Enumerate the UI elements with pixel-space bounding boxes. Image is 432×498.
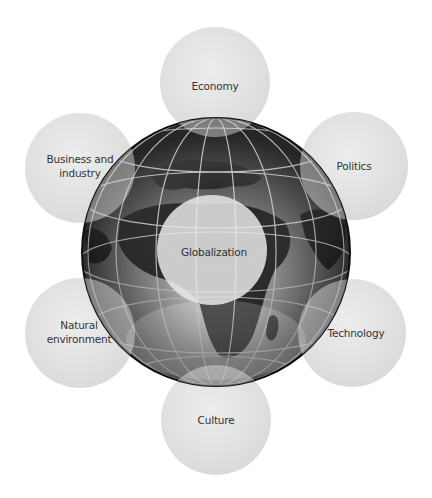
node-label-politics: Politics xyxy=(337,159,372,173)
node-label-economy: Economy xyxy=(192,79,239,93)
globalization-diagram: Economy Politics Technology Culture Natu… xyxy=(0,0,432,498)
node-label-natural-environment: Natural environment xyxy=(47,318,112,346)
node-label-business-and-industry: Business and industry xyxy=(47,152,114,180)
node-label-culture: Culture xyxy=(198,413,235,427)
center-label-globalization: Globalization xyxy=(181,245,247,259)
node-label-technology: Technology xyxy=(328,326,385,340)
